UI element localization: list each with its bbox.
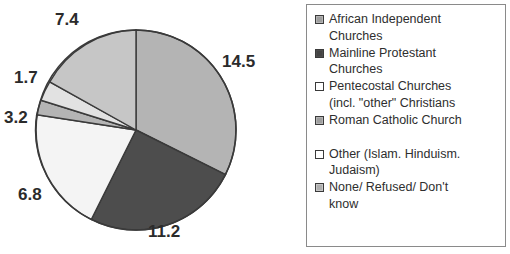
legend-item-other-religions[interactable]: Other (Islam. Hinduism.Judaism) xyxy=(315,146,505,180)
legend-label: Pentecostal Churches(incl. "other" Chris… xyxy=(329,78,455,112)
legend-item-african-independent-churches[interactable]: African IndependentChurches xyxy=(315,11,505,45)
legend-swatch-icon xyxy=(315,49,324,58)
pie-value-label-14-5: 14.5 xyxy=(222,52,255,72)
pie-chart-panel: 14.5 11.2 6.8 3.2 1.7 7.4 xyxy=(0,0,300,254)
chart-legend: African IndependentChurches Mainline Pro… xyxy=(306,4,506,247)
legend-item-roman-catholic-church[interactable]: Roman Catholic Church xyxy=(315,112,505,129)
legend-swatch-icon xyxy=(315,150,324,159)
legend-label: Mainline ProtestantChurches xyxy=(329,45,436,79)
pie-value-label-1-7: 1.7 xyxy=(14,68,38,88)
legend-label: Other (Islam. Hinduism.Judaism) xyxy=(329,146,460,180)
legend-label: None/ Refused/ Don'tknow xyxy=(329,179,448,213)
legend-item-pentecostal-churches[interactable]: Pentecostal Churches(incl. "other" Chris… xyxy=(315,78,505,112)
legend-swatch-icon xyxy=(315,15,324,24)
legend-label: Roman Catholic Church xyxy=(329,112,462,129)
pie-chart-graphic xyxy=(32,26,240,234)
legend-swatch-icon xyxy=(315,116,324,125)
legend-item-list: African IndependentChurches Mainline Pro… xyxy=(315,11,505,213)
pie-chart-figure: 14.5 11.2 6.8 3.2 1.7 7.4 African Indepe… xyxy=(0,0,510,254)
pie-value-label-7-4: 7.4 xyxy=(55,10,79,30)
legend-label: African IndependentChurches xyxy=(329,11,441,45)
legend-gap xyxy=(315,129,505,146)
pie-value-label-6-8: 6.8 xyxy=(18,185,42,205)
legend-item-none-refused-dont-know[interactable]: None/ Refused/ Don'tknow xyxy=(315,179,505,213)
legend-swatch-icon xyxy=(315,82,324,91)
legend-item-mainline-protestant-churches[interactable]: Mainline ProtestantChurches xyxy=(315,45,505,79)
pie-value-label-11-2: 11.2 xyxy=(148,222,180,242)
pie-value-label-3-2: 3.2 xyxy=(4,108,28,128)
legend-swatch-icon xyxy=(315,183,324,192)
